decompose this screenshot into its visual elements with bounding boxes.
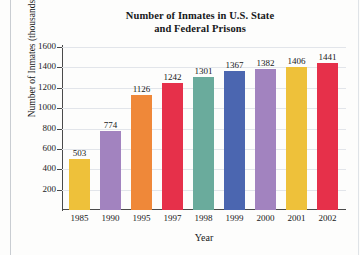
- x-tick-label: 1997: [156, 213, 190, 223]
- plot-area: 5037741126124213011367138214061441: [62, 47, 346, 210]
- bar: 774: [100, 131, 121, 210]
- chart-title: Number of Inmates in U.S. State and Fede…: [60, 10, 340, 35]
- x-tick-label: 2002: [311, 213, 345, 223]
- x-axis-title: Year: [62, 232, 346, 243]
- y-tick-label: 1400: [26, 61, 56, 71]
- bar: 1301: [193, 77, 214, 210]
- y-tick-mark: [57, 108, 62, 109]
- bar: 503: [69, 159, 90, 210]
- y-tick-mark: [57, 149, 62, 150]
- y-tick-label: 400: [26, 163, 56, 173]
- bar-value-label: 503: [73, 148, 87, 158]
- bar: 1367: [224, 71, 245, 210]
- bar-value-label: 1242: [164, 72, 182, 82]
- bar: 1242: [162, 83, 183, 210]
- bar-value-label: 1367: [226, 60, 244, 70]
- y-tick-label: 1600: [26, 41, 56, 51]
- x-tick-label: 1990: [94, 213, 128, 223]
- y-tick-label: 1200: [26, 82, 56, 92]
- y-tick-label: 1000: [26, 102, 56, 112]
- bar-value-label: 1441: [319, 52, 337, 62]
- bar: 1441: [317, 63, 338, 210]
- bar: 1406: [286, 67, 307, 210]
- x-tick-label: 1998: [187, 213, 221, 223]
- y-tick-mark: [57, 129, 62, 130]
- y-tick-mark: [57, 88, 62, 89]
- bar-value-label: 1382: [257, 58, 275, 68]
- y-tick-mark: [57, 169, 62, 170]
- chart-figure: Number of Inmates in U.S. State and Fede…: [0, 0, 360, 255]
- y-tick-mark: [57, 47, 62, 48]
- gridline: [62, 47, 346, 48]
- x-tick-label: 1999: [218, 213, 252, 223]
- y-tick-mark: [57, 190, 62, 191]
- bar-value-label: 1301: [195, 66, 213, 76]
- y-tick-label: 800: [26, 123, 56, 133]
- y-tick-label: 600: [26, 143, 56, 153]
- bar: 1382: [255, 69, 276, 210]
- x-tick-label: 2001: [280, 213, 314, 223]
- x-tick-label: 1995: [125, 213, 159, 223]
- x-tick-label: 1985: [63, 213, 97, 223]
- y-tick-label: 200: [26, 184, 56, 194]
- bar-value-label: 1406: [288, 56, 306, 66]
- bar: 1126: [131, 95, 152, 210]
- y-tick-mark: [57, 67, 62, 68]
- bar-value-label: 1126: [133, 84, 151, 94]
- x-tick-label: 2000: [249, 213, 283, 223]
- bar-value-label: 774: [104, 120, 118, 130]
- chart-title-line-2: and Federal Prisons: [60, 23, 340, 36]
- chart-title-line-1: Number of Inmates in U.S. State: [60, 10, 340, 23]
